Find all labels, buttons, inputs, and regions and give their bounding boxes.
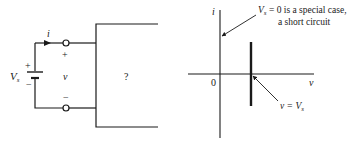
source-plus-sign: + [25,60,31,71]
y-axis-label: i [212,6,215,17]
voltage-label: v [63,71,68,82]
source-label: Vs [10,70,20,84]
terminal-plus [63,40,69,46]
unknown-box-label: ? [124,71,129,82]
x-axis-label: v [309,77,314,88]
source-minus-sign: − [26,79,32,90]
vs-annotation: v = Vs [280,101,304,113]
short-circuit-pointer-arrow [222,15,256,36]
current-arrow-icon [44,40,51,46]
wire-left-bottom [35,79,63,108]
short-circuit-annotation-line2: a short circuit [278,17,331,27]
circuit [27,24,158,127]
short-circuit-annotation-line1: Vs = 0 is a special case, [258,5,347,17]
voltage-source-diagram: i + − Vs + v − ? i v 0 Vs = 0 is a speci… [0,0,364,145]
terminal-minus-sign: − [63,92,69,103]
terminal-minus [63,105,69,111]
vs-pointer-arrow [253,76,278,101]
iv-graph [188,10,314,138]
terminal-plus-sign: + [62,49,68,60]
origin-label: 0 [211,77,216,88]
current-label: i [47,28,50,39]
